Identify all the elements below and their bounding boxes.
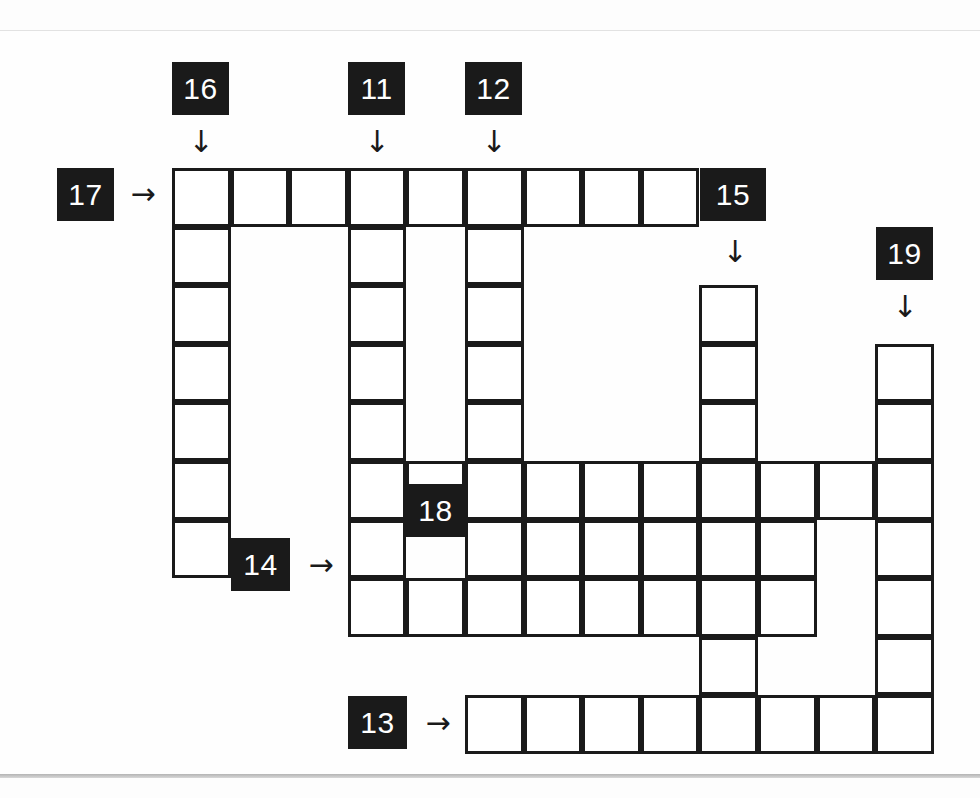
crossword-cell[interactable]	[348, 578, 407, 637]
crossword-cell[interactable]	[758, 695, 817, 754]
crossword-cell[interactable]	[348, 227, 407, 286]
clue-number-15[interactable]: 15	[700, 168, 766, 221]
crossword-cell[interactable]	[348, 285, 407, 344]
crossword-cell[interactable]	[172, 402, 231, 461]
crossword-cell[interactable]	[348, 461, 407, 520]
crossword-cell[interactable]	[172, 285, 231, 344]
crossword-cell[interactable]	[465, 520, 524, 579]
crossword-cell[interactable]	[817, 695, 876, 754]
crossword-cell[interactable]	[348, 402, 407, 461]
crossword-cell[interactable]	[348, 344, 407, 403]
crossword-cell[interactable]	[524, 520, 583, 579]
arrow-across-icon: →	[417, 710, 459, 736]
crossword-cell[interactable]	[641, 578, 700, 637]
crossword-cell[interactable]	[758, 520, 817, 579]
clue-number-13[interactable]: 13	[348, 696, 407, 749]
crossword-cell[interactable]	[641, 461, 700, 520]
crossword-cell[interactable]	[817, 461, 876, 520]
scan-rule-bottom	[0, 774, 980, 778]
crossword-cell[interactable]	[524, 578, 583, 637]
crossword-cell[interactable]	[641, 520, 700, 579]
arrow-down-icon: ↓	[188, 122, 214, 162]
crossword-cell[interactable]	[699, 285, 758, 344]
crossword-cell[interactable]	[875, 402, 934, 461]
crossword-cell[interactable]	[699, 461, 758, 520]
crossword-cell[interactable]	[289, 168, 348, 227]
clue-number-17[interactable]: 17	[57, 168, 114, 221]
arrow-across-icon: →	[300, 552, 342, 578]
arrow-down-icon: ↓	[722, 232, 748, 272]
clue-number-18[interactable]: 18	[406, 484, 465, 537]
crossword-cell[interactable]	[875, 520, 934, 579]
crossword-cell[interactable]	[699, 520, 758, 579]
crossword-cell[interactable]	[465, 227, 524, 286]
clue-number-19[interactable]: 19	[876, 227, 933, 280]
crossword-cell[interactable]	[758, 578, 817, 637]
crossword-cell[interactable]	[348, 168, 407, 227]
crossword-cell[interactable]	[524, 461, 583, 520]
crossword-cell[interactable]	[172, 227, 231, 286]
crossword-cell[interactable]	[465, 461, 524, 520]
crossword-cell[interactable]	[465, 402, 524, 461]
crossword-cell[interactable]	[699, 402, 758, 461]
crossword-cell[interactable]	[875, 344, 934, 403]
crossword-cell[interactable]	[465, 285, 524, 344]
crossword-cell[interactable]	[582, 695, 641, 754]
crossword-cell[interactable]	[699, 344, 758, 403]
crossword-cell[interactable]	[699, 578, 758, 637]
crossword-cell[interactable]	[582, 520, 641, 579]
arrow-down-icon: ↓	[892, 287, 918, 327]
crossword-cell[interactable]	[465, 168, 524, 227]
crossword-cell[interactable]	[875, 695, 934, 754]
clue-number-12[interactable]: 12	[465, 62, 522, 115]
clue-number-11[interactable]: 11	[348, 62, 405, 115]
crossword-cell[interactable]	[699, 695, 758, 754]
crossword-cell[interactable]	[641, 168, 700, 227]
crossword-cell[interactable]	[641, 695, 700, 754]
crossword-cell[interactable]	[172, 168, 231, 227]
arrow-down-icon: ↓	[481, 122, 507, 162]
clue-number-14[interactable]: 14	[231, 538, 290, 591]
crossword-cell[interactable]	[524, 695, 583, 754]
crossword-cell[interactable]	[758, 461, 817, 520]
crossword-cell[interactable]	[406, 578, 465, 637]
crossword-cell[interactable]	[524, 168, 583, 227]
crossword-cell[interactable]	[465, 344, 524, 403]
crossword-cell[interactable]	[465, 695, 524, 754]
crossword-cell[interactable]	[406, 168, 465, 227]
crossword-cell[interactable]	[465, 578, 524, 637]
crossword-cell[interactable]	[172, 344, 231, 403]
crossword-cell[interactable]	[699, 637, 758, 696]
crossword-cell[interactable]	[172, 520, 231, 579]
scan-rule-top	[0, 30, 980, 31]
crossword-cell[interactable]	[582, 168, 641, 227]
arrow-down-icon: ↓	[364, 122, 390, 162]
arrow-across-icon: →	[122, 181, 164, 207]
crossword-cell[interactable]	[875, 461, 934, 520]
crossword-cell[interactable]	[875, 578, 934, 637]
crossword-cell[interactable]	[348, 520, 407, 579]
crossword-cell[interactable]	[582, 578, 641, 637]
crossword-cell[interactable]	[172, 461, 231, 520]
clue-number-16[interactable]: 16	[172, 62, 229, 115]
crossword-cell[interactable]	[875, 637, 934, 696]
crossword-cell[interactable]	[582, 461, 641, 520]
crossword-page: 16↓11↓12↓17→15↓19↓1814→13→	[0, 0, 980, 798]
crossword-cell[interactable]	[231, 168, 290, 227]
